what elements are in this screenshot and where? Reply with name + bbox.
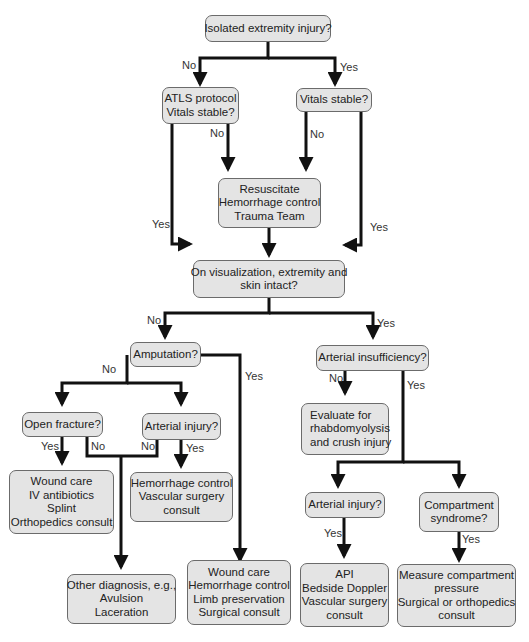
node-text: consult [163,504,199,518]
node-text: IV antibiotics [29,489,94,503]
node-hemorrhage-vascular: Hemorrhage control Vascular surgery cons… [130,472,233,522]
node-text: Amputation? [133,348,198,362]
node-text: Open fracture? [24,418,101,432]
node-text: Measure compartment [399,569,514,583]
node-text: ATLS protocol [165,92,237,106]
node-text: Evaluate for [310,409,371,423]
node-text: Vascular surgery [139,490,224,504]
edge-label-arterial-right-yes: Yes [324,527,342,539]
node-text: Wound care [31,475,93,489]
edge-label-open-fracture-no: No [91,440,105,452]
edge-label-visual-no: No [147,314,161,326]
edge-label-atls-yes: Yes [152,218,170,230]
node-api-doppler: API Bedside Doppler Vascular surgery con… [300,563,389,627]
node-text: and crush injury [310,436,391,450]
node-arterial-injury-left: Arterial injury? [142,413,221,440]
node-wound-care-antibiotics: Wound care IV antibiotics Splint Orthope… [9,470,114,534]
node-atls-protocol: ATLS protocol Vitals stable? [162,87,239,124]
node-arterial-insufficiency: Arterial insufficiency? [316,345,429,371]
node-text: Bedside Doppler [302,582,387,596]
node-text: Avulsion [100,592,143,606]
node-text: Isolated extremity injury? [204,22,331,36]
edge-label-insufficiency-no: No [329,372,343,384]
edge-label-arterial-left-yes: Yes [186,442,204,454]
edge-label-isolated-no: No [182,59,196,71]
node-other-diagnosis: Other diagnosis, e.g., Avulsion Lacerati… [67,574,176,624]
node-open-fracture: Open fracture? [22,412,103,437]
node-text: Trauma Team [234,210,304,224]
node-evaluate-rhabdomyolysis: Evaluate for rhabdomyolysis and crush in… [301,403,389,455]
edge-label-insufficiency-yes: Yes [407,379,425,391]
node-text: Splint [47,502,76,516]
node-isolated-extremity-injury: Isolated extremity injury? [205,15,331,42]
node-text: Limb preservation [193,593,284,607]
edge-label-visual-yes: Yes [377,317,395,329]
node-text: Hemorrhage control [219,196,321,210]
node-compartment-syndrome: Compartment syndrome? [419,492,499,532]
edge-label-compartment-yes: Yes [462,533,480,545]
node-text: rhabdomyolysis [310,422,390,436]
node-text: On visualization, extremity and [191,266,348,280]
node-text: Orthopedics consult [11,516,113,530]
node-text: Surgical or orthopedics [398,596,516,610]
edge-label-amputation-yes: Yes [245,370,263,382]
node-text: Vitals stable? [166,106,234,120]
node-text: Hemorrhage control [188,579,290,593]
node-text: Arterial injury? [145,420,219,434]
node-measure-compartment: Measure compartment pressure Surgical or… [397,564,516,627]
node-text: skin intact? [240,279,298,293]
edge-label-vitals-yes: Yes [370,221,388,233]
edge-label-arterial-left-no: No [141,440,155,452]
node-amputation: Amputation? [130,342,201,367]
edge-label-amputation-no: No [102,363,116,375]
node-text: Hemorrhage control [131,477,233,491]
node-text: Vascular surgery [302,595,387,609]
node-text: Arterial insufficiency? [318,351,426,365]
edge-label-vitals-no: No [310,128,324,140]
node-text: consult [438,609,474,623]
flowchart-canvas: Isolated extremity injury? ATLS protocol… [0,0,529,642]
connector-lines [0,0,529,642]
node-resuscitate: Resuscitate Hemorrhage control Trauma Te… [218,178,321,228]
edge-label-atls-no: No [210,127,224,139]
node-arterial-injury-right: Arterial injury? [305,492,385,518]
edge-label-open-fracture-yes: Yes [41,440,59,452]
node-text: Surgical consult [198,606,279,620]
node-text: Laceration [95,606,149,620]
node-text: Arterial injury? [308,498,382,512]
node-text: pressure [434,582,479,596]
node-text: Other diagnosis, e.g., [67,579,176,593]
node-text: syndrome? [431,512,488,526]
node-text: Resuscitate [239,183,299,197]
node-text: Wound care [208,566,270,580]
node-text: API [335,568,354,582]
node-visualization-skin-intact: On visualization, extremity and skin int… [193,260,345,298]
node-text: Compartment [424,499,494,513]
node-text: consult [326,609,362,623]
node-vitals-stable: Vitals stable? [296,88,372,112]
edge-label-isolated-yes: Yes [340,61,358,73]
node-text: Vitals stable? [300,93,368,107]
node-wound-care-limb: Wound care Hemorrhage control Limb prese… [187,560,291,625]
